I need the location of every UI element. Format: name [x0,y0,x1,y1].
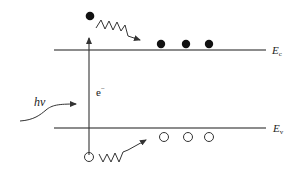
excited-electron-icon [86,12,95,21]
valence-hole-icon [160,133,169,142]
electron-label: e− [96,86,105,98]
valence-hole-icon [205,133,214,142]
label-sup: − [101,85,105,93]
label-sub: v [280,128,284,136]
photon-arrow [20,104,76,121]
valence-hole-icon [184,133,193,142]
label-main: E [273,122,280,134]
band-diagram [0,0,300,176]
conduction-electron-icon [157,40,165,48]
hole-relaxation-arrow [128,140,146,150]
electron-relaxation-zigzag [96,20,128,36]
conduction-electron-icon [205,40,213,48]
valence-band-label: Ev [273,123,283,136]
hole-relaxation-zigzag [99,150,128,162]
label-sub: c [279,50,282,58]
photon-label: hν [34,96,45,108]
conduction-band-label: Ec [272,45,282,58]
label-main: E [272,44,279,56]
conduction-electron-icon [182,40,190,48]
electron-relaxation-arrow [128,36,140,40]
